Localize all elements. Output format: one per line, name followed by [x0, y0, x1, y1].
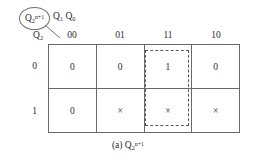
column-variable-label: Q1 Q0 [53, 11, 75, 22]
column-header-01: 01 [96, 28, 144, 43]
annotation-label: Q2n+1 [25, 14, 44, 24]
row-variable-label: Q2 [33, 30, 43, 41]
cell-r1-c10: × [192, 89, 239, 132]
table-row: 0 0 1 0 [49, 45, 239, 89]
row-header-0: 0 [22, 44, 47, 89]
annotation-circle: Q2n+1 [19, 7, 50, 30]
cell-r1-c11: × [145, 89, 193, 132]
cell-r1-c00: 0 [49, 89, 97, 132]
cell-r0-c01: 0 [97, 45, 145, 88]
row-header-column: 0 1 [22, 44, 47, 133]
karnaugh-map-figure: Q2n+1 Q1 Q0 Q2 00 01 11 10 0 1 0 0 1 0 0… [0, 0, 256, 165]
row-header-1: 1 [22, 89, 47, 134]
figure-caption: (a) Q2n+1 [0, 140, 256, 151]
cell-r0-c11: 1 [145, 45, 193, 88]
column-header-11: 11 [144, 28, 192, 43]
column-header-10: 10 [192, 28, 240, 43]
kmap-grid: 0 0 1 0 0 × × × [48, 44, 240, 133]
table-row: 0 × × × [49, 89, 239, 132]
cell-r0-c10: 0 [192, 45, 239, 88]
column-header-00: 00 [48, 28, 96, 43]
cell-r1-c01: × [97, 89, 145, 132]
cell-r0-c00: 0 [49, 45, 97, 88]
column-header-row: 00 01 11 10 [48, 28, 240, 43]
